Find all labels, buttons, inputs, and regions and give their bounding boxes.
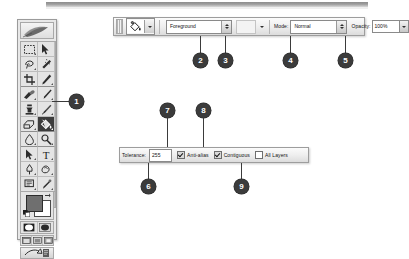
fill-source-value: Foreground bbox=[167, 24, 221, 29]
callout-8: 8 bbox=[196, 103, 211, 118]
swap-colors-icon[interactable] bbox=[44, 193, 51, 200]
default-colors-icon[interactable] bbox=[23, 210, 30, 217]
quick-mask-mode-button[interactable] bbox=[38, 222, 54, 233]
full-screen-mode-button[interactable] bbox=[43, 236, 53, 245]
tool-paint-bucket[interactable] bbox=[38, 117, 55, 132]
tool-path-selection[interactable] bbox=[21, 147, 38, 162]
tool-flyout-corner-icon bbox=[51, 83, 53, 85]
tool-flyout-corner-icon bbox=[51, 188, 53, 190]
contiguous-checkbox[interactable] bbox=[214, 151, 222, 159]
opacity-chevron-down-icon[interactable] bbox=[400, 20, 409, 33]
tool-flyout-corner-icon bbox=[34, 173, 36, 175]
tool-flyout-corner-icon bbox=[51, 98, 53, 100]
all-layers-option[interactable]: All Layers bbox=[255, 151, 288, 159]
toolbox-palette[interactable]: T bbox=[17, 19, 57, 240]
tool-preset-picker[interactable] bbox=[126, 18, 155, 35]
tool-grid[interactable]: T bbox=[20, 41, 56, 208]
callout-leader-6 bbox=[148, 163, 149, 180]
mode-label: Mode: bbox=[274, 24, 288, 29]
tool-clone-stamp[interactable] bbox=[21, 102, 38, 117]
standard-mode-button[interactable] bbox=[21, 222, 38, 233]
tool-move[interactable] bbox=[38, 42, 55, 57]
callout-leader-9 bbox=[241, 163, 242, 180]
tool-type[interactable]: T bbox=[38, 147, 55, 162]
all-layers-checkbox[interactable] bbox=[255, 151, 263, 159]
tool-flyout-corner-icon bbox=[34, 158, 36, 160]
contiguous-option[interactable]: Contiguous bbox=[214, 151, 250, 159]
tool-flyout-corner-icon bbox=[51, 173, 53, 175]
toolbox-header-logo bbox=[20, 22, 54, 39]
tolerance-value: 255 bbox=[152, 153, 160, 158]
anti-alias-checkbox[interactable] bbox=[177, 151, 185, 159]
callout-9: 9 bbox=[234, 179, 249, 194]
window-title-strip-shadow bbox=[46, 7, 368, 9]
tool-flyout-corner-icon bbox=[34, 68, 36, 70]
callout-2: 2 bbox=[193, 53, 208, 68]
tool-flyout-corner-icon bbox=[51, 128, 53, 130]
tool-flyout-corner-icon bbox=[34, 53, 36, 55]
tolerance-input[interactable]: 255 bbox=[149, 149, 172, 162]
full-screen-with-menu-bar-button[interactable] bbox=[32, 236, 43, 245]
callout-leader-3 bbox=[225, 36, 226, 54]
tool-eraser[interactable] bbox=[21, 117, 38, 132]
callout-leader-2 bbox=[200, 36, 201, 54]
callout-7: 7 bbox=[160, 103, 175, 118]
callout-4: 4 bbox=[283, 53, 298, 68]
tool-blur[interactable] bbox=[21, 132, 38, 147]
tool-flyout-corner-icon bbox=[34, 98, 36, 100]
foreground-background-color-swatches[interactable] bbox=[20, 191, 54, 220]
blend-mode-value: Normal bbox=[291, 24, 336, 29]
tool-brush[interactable] bbox=[38, 87, 55, 102]
tool-dodge[interactable] bbox=[38, 132, 55, 147]
callout-5: 5 bbox=[338, 53, 353, 68]
tool-healing-brush[interactable] bbox=[21, 87, 38, 102]
callout-6: 6 bbox=[141, 179, 156, 194]
tool-lasso[interactable] bbox=[21, 57, 38, 72]
tool-flyout-corner-icon bbox=[51, 143, 53, 145]
blend-mode-chevron-icon[interactable] bbox=[336, 21, 346, 33]
tool-flyout-corner-icon bbox=[34, 128, 36, 130]
opacity-input[interactable]: 100% bbox=[372, 20, 400, 33]
tool-shape[interactable] bbox=[38, 162, 55, 177]
tool-magic-wand[interactable] bbox=[38, 57, 55, 72]
all-layers-label: All Layers bbox=[265, 153, 288, 158]
tool-flyout-corner-icon bbox=[34, 113, 36, 115]
anti-alias-option[interactable]: Anti-alias bbox=[177, 151, 209, 159]
tool-preset-chevron-down-icon[interactable] bbox=[144, 20, 154, 33]
mask-mode-buttons[interactable] bbox=[20, 221, 54, 234]
contiguous-label: Contiguous bbox=[224, 153, 250, 158]
options-bar-grip[interactable] bbox=[116, 19, 123, 34]
tolerance-label: Tolerance: bbox=[122, 153, 146, 158]
options-divider bbox=[269, 20, 270, 34]
tool-rectangular-marquee[interactable] bbox=[21, 42, 38, 57]
opacity-label: Opacity: bbox=[351, 24, 370, 29]
standard-screen-mode-button[interactable] bbox=[21, 236, 32, 245]
paint-bucket-icon bbox=[127, 20, 144, 33]
callout-leader-8 bbox=[203, 118, 204, 147]
tool-pen[interactable] bbox=[21, 162, 38, 177]
callout-3: 3 bbox=[218, 53, 233, 68]
anti-alias-label: Anti-alias bbox=[187, 153, 209, 158]
tool-crop[interactable] bbox=[21, 72, 38, 87]
pattern-swatch-preview[interactable] bbox=[236, 20, 256, 34]
tool-options-bar-top[interactable]: Foreground Mode: Normal Opacity: 100% bbox=[113, 17, 365, 36]
tool-flyout-corner-icon bbox=[51, 158, 53, 160]
screen-mode-buttons[interactable] bbox=[20, 235, 54, 246]
tool-notes[interactable] bbox=[21, 177, 38, 192]
blend-mode-dropdown[interactable]: Normal bbox=[290, 20, 347, 34]
fill-source-chevron-icon[interactable] bbox=[221, 21, 231, 33]
fill-source-dropdown[interactable]: Foreground bbox=[166, 20, 232, 34]
callout-leader-4 bbox=[290, 36, 291, 54]
opacity-value: 100% bbox=[375, 24, 388, 29]
jump-to-imageready-button[interactable] bbox=[20, 247, 54, 259]
tool-options-bar-bottom[interactable]: Tolerance: 255 Anti-alias Contiguous All… bbox=[119, 147, 309, 163]
tool-eyedropper[interactable] bbox=[38, 177, 55, 192]
tool-flyout-corner-icon bbox=[34, 143, 36, 145]
tool-flyout-corner-icon bbox=[51, 113, 53, 115]
options-divider bbox=[159, 20, 160, 34]
tool-slice[interactable] bbox=[38, 72, 55, 87]
tool-history-brush[interactable] bbox=[38, 102, 55, 117]
pattern-picker-chevron-down-icon[interactable] bbox=[258, 26, 265, 28]
tool-flyout-corner-icon bbox=[34, 188, 36, 190]
